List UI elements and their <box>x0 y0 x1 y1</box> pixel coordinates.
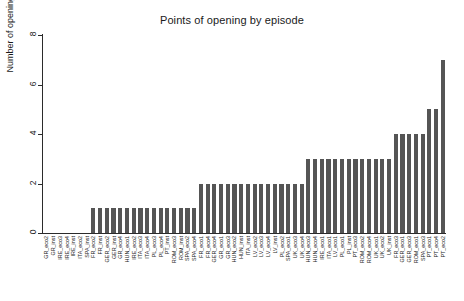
x-axis-tick-label: PT_inst <box>164 236 170 254</box>
x-axis-tick-label: UK_inst <box>386 236 392 255</box>
bar <box>159 208 163 233</box>
bar-slot <box>332 35 339 233</box>
x-label-slot: PL_eco1 <box>339 236 346 298</box>
bar-slot <box>318 35 325 233</box>
x-axis-tick-label: LV_inst <box>272 236 278 254</box>
x-axis-tick-label: ITA_eco1 <box>326 236 332 259</box>
bar-slot <box>218 35 225 233</box>
bar-slot <box>56 35 63 233</box>
x-axis-tick-label: PL_eco3 <box>151 236 157 257</box>
x-label-slot: SPA_eco1 <box>285 236 292 298</box>
x-axis-tick-label: GER_eco4 <box>211 236 217 262</box>
bar-slot <box>97 35 104 233</box>
x-label-slot: ITA_eco1 <box>325 236 332 298</box>
bar <box>387 159 391 233</box>
x-label-slot: ITA_eco4 <box>144 236 151 298</box>
x-axis-tick-label: LV_eco1 <box>332 236 338 257</box>
x-label-slot: HUN_eco1 <box>124 236 131 298</box>
x-axis-tick-label: LV_eco4 <box>265 236 271 257</box>
x-label-slot: LV_inst <box>271 236 278 298</box>
x-label-slot: PL_eco3 <box>151 236 158 298</box>
bar-slot <box>191 35 198 233</box>
x-axis-tick-label: ITA_eco4 <box>144 236 150 259</box>
x-label-slot: IRE_eco3 <box>56 236 63 298</box>
bar-slot <box>204 35 211 233</box>
y-axis-tick-label: 2 <box>29 180 39 185</box>
x-label-slot: SPA_eco3 <box>419 236 426 298</box>
bar <box>279 184 283 234</box>
x-label-slot: IRE_inst <box>70 236 77 298</box>
y-axis-tick <box>38 85 42 86</box>
x-label-slot: GER_eco2 <box>103 236 110 298</box>
y-axis-tick-label: 8 <box>29 32 39 37</box>
bar <box>441 60 445 233</box>
x-label-slot: HUN_eco2 <box>231 236 238 298</box>
x-axis-tick-label: HUN_eco1 <box>124 236 130 262</box>
bar-slot <box>278 35 285 233</box>
x-label-slot: LV_eco2 <box>251 236 258 298</box>
bar <box>199 184 203 234</box>
bar <box>266 184 270 234</box>
x-axis-tick-label: IRE_eco4 <box>64 236 70 260</box>
bar <box>253 184 257 234</box>
x-axis-tick-label: PL_inst <box>346 236 352 254</box>
bar-slot <box>298 35 305 233</box>
x-axis-tick-label: ROM_eco2 <box>359 236 365 263</box>
x-axis-tick-label: SPA_eco1 <box>285 236 291 261</box>
bar <box>118 208 122 233</box>
x-axis-tick-label: LV_eco2 <box>252 236 258 257</box>
x-label-slot: IRE_eco1 <box>318 236 325 298</box>
x-axis-tick-label: GR_eco4 <box>117 236 123 259</box>
bar <box>273 184 277 234</box>
x-label-slot: GER_eco4 <box>211 236 218 298</box>
x-label-slot: UK_eco3 <box>292 236 299 298</box>
x-axis-tick-label: ROM_eco3 <box>171 236 177 263</box>
bar <box>212 184 216 234</box>
bar <box>179 208 183 233</box>
bar <box>326 159 330 233</box>
x-axis-tick-label: GR_eco3 <box>225 236 231 259</box>
bar-slot <box>43 35 50 233</box>
bar-slot <box>413 35 420 233</box>
x-label-slot: ROM_eco4 <box>366 236 373 298</box>
bar-slot <box>312 35 319 233</box>
x-axis-tick-label: ROM_inst <box>178 236 184 260</box>
x-axis-tick-label: HUN_eco4 <box>312 236 318 262</box>
bar-slot <box>379 35 386 233</box>
x-axis-tick-label: IRE_inst <box>70 236 76 256</box>
bar <box>152 208 156 233</box>
bar-slot <box>151 35 158 233</box>
x-label-slot: GR_eco2 <box>43 236 50 298</box>
x-label-slot: LV_eco3 <box>258 236 265 298</box>
bar-slot <box>345 35 352 233</box>
bar-slot <box>198 35 205 233</box>
x-label-slot: FR_eco1 <box>198 236 205 298</box>
x-axis-tick-label: SPA_eco4 <box>191 236 197 261</box>
bar-slot <box>157 35 164 233</box>
bar <box>300 184 304 234</box>
x-axis-tick-label: FR_inst <box>97 236 103 255</box>
bar-slot <box>238 35 245 233</box>
x-axis-tick-label: UK_eco4 <box>299 236 305 258</box>
bar-slot <box>258 35 265 233</box>
x-label-slot: ROM_eco2 <box>359 236 366 298</box>
x-label-slot: PT_eco4 <box>433 236 440 298</box>
bar-slot <box>77 35 84 233</box>
bar <box>232 184 236 234</box>
bar <box>374 159 378 233</box>
y-axis-tick <box>38 35 42 36</box>
x-label-slot: GER_inst <box>110 236 117 298</box>
chart-container: Points of opening by episode Number of o… <box>0 0 464 301</box>
x-label-slot: HUN_eco4 <box>312 236 319 298</box>
y-axis-tick-label: 6 <box>29 81 39 86</box>
x-label-slot: ROM_eco1 <box>413 236 420 298</box>
x-label-slot: SPA_eco4 <box>191 236 198 298</box>
y-axis-tick-label: 0 <box>29 230 39 235</box>
x-label-slot: PT_eco1 <box>426 236 433 298</box>
x-label-slot: IRE_eco4 <box>63 236 70 298</box>
x-axis-tick-label: GR_eco2 <box>43 236 49 259</box>
x-label-slot: FR_eco2 <box>90 236 97 298</box>
bar-slot <box>63 35 70 233</box>
x-label-slot: LV_eco4 <box>265 236 272 298</box>
bar <box>132 208 136 233</box>
